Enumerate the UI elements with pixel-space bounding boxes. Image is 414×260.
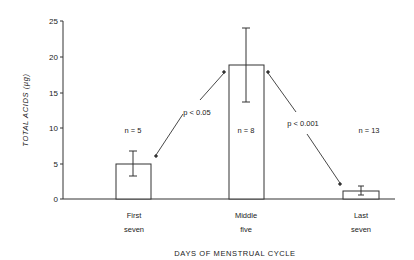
category-label: Last [354,211,369,220]
y-tick-label: 20 [49,53,58,62]
y-tick-label: 10 [49,124,58,133]
p-value-annotation: p < 0.05 [183,108,210,117]
y-tick-label: 5 [54,160,59,169]
x-axis-label: DAYS OF MENSTRUAL CYCLE [174,249,295,258]
n-label: n = 5 [125,126,142,135]
y-tick-label: 25 [49,17,58,26]
bar-chart: 0 5 10 15 20 25 TOTAL ACIDS (µg) n = 5 n… [0,0,414,260]
y-tick-label: 15 [49,89,58,98]
n-label: n = 13 [358,126,379,135]
category-label: five [240,225,252,234]
category-label: First [127,211,142,220]
p-value-annotation: p < 0.001 [287,119,319,128]
category-label: seven [351,225,371,234]
category-label: Middle [235,211,257,220]
n-label: n = 8 [238,126,255,135]
y-ticks: 0 5 10 15 20 25 [49,17,63,204]
y-axis-label: TOTAL ACIDS (µg) [21,73,30,146]
category-label: seven [124,225,144,234]
y-tick-label: 0 [54,195,59,204]
